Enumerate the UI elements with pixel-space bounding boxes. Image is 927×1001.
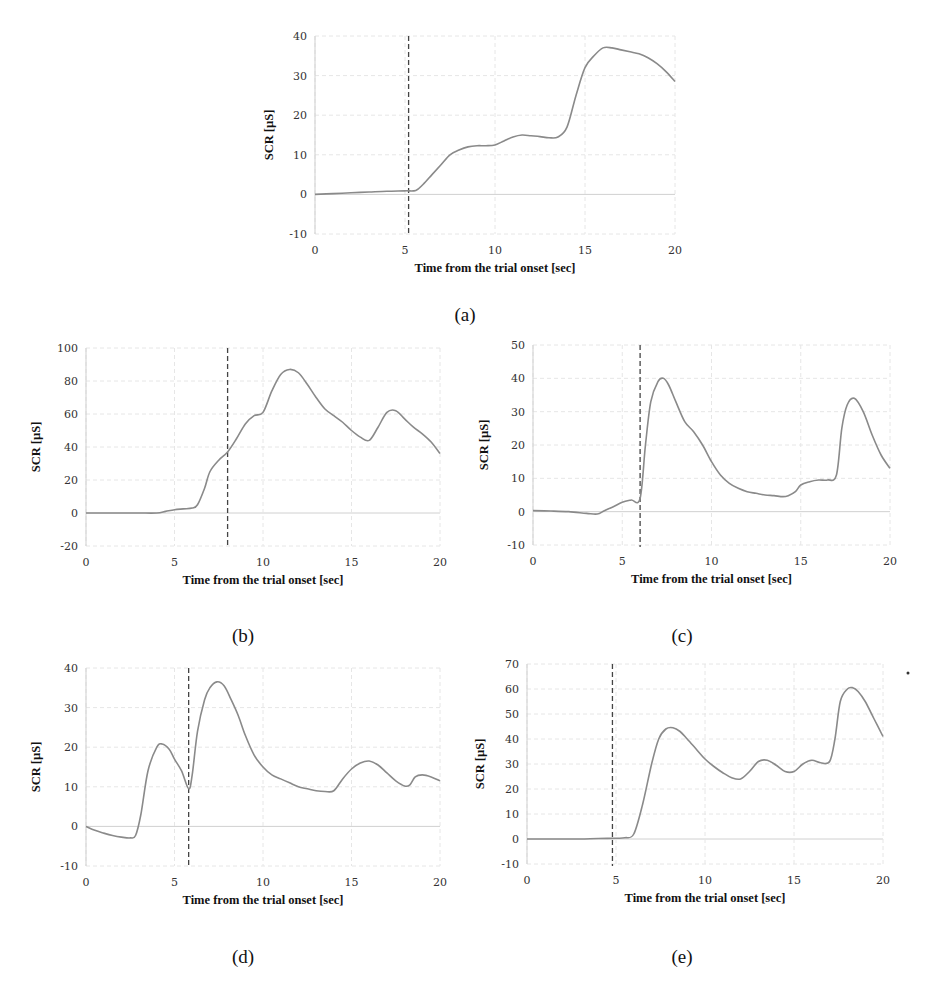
svg-text:5: 5 (613, 874, 620, 887)
y-tick-labels: -10010203040506070 (501, 658, 519, 871)
svg-text:60: 60 (505, 683, 519, 696)
chart-svg-e: -1001020304050607005101520Time from the … (0, 0, 927, 960)
svg-text:50: 50 (505, 708, 519, 721)
svg-text:0: 0 (524, 874, 531, 887)
svg-text:10: 10 (698, 874, 712, 887)
x-tick-labels: 05101520 (524, 874, 891, 887)
svg-text:30: 30 (505, 758, 519, 771)
stray-dot (907, 672, 910, 675)
x-axis-label: Time from the trial onset [sec] (625, 891, 786, 905)
svg-text:70: 70 (505, 658, 519, 671)
panel-caption-e: (e) (652, 946, 712, 968)
grid-lines (527, 664, 883, 864)
chart-panel-e: -1001020304050607005101520Time from the … (0, 0, 927, 960)
svg-text:20: 20 (505, 783, 519, 796)
y-axis-label: SCR [µS] (473, 739, 487, 790)
svg-text:15: 15 (787, 874, 801, 887)
svg-text:0: 0 (512, 833, 519, 846)
svg-text:20: 20 (876, 874, 890, 887)
svg-text:-10: -10 (501, 858, 519, 871)
svg-text:40: 40 (505, 733, 519, 746)
svg-text:10: 10 (505, 808, 519, 821)
